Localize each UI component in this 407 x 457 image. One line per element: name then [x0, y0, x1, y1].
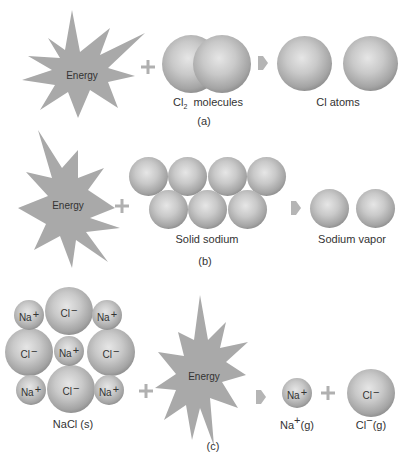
na-gas-label: Na+(g): [280, 414, 314, 431]
na-atom: [228, 190, 267, 229]
energy-label-c: Energy: [188, 371, 220, 382]
cl-ion: Cl−: [45, 287, 93, 335]
cl-ion: Cl−: [5, 328, 53, 376]
cl-ion: Cl−: [87, 328, 135, 376]
arrow-icon-a: [258, 56, 268, 70]
sodium-vapor-label: Sodium vapor: [318, 233, 386, 245]
caption-a: (a): [197, 115, 210, 127]
na-ion: Na+: [92, 300, 122, 330]
cl-ion-gas: Cl−: [347, 369, 395, 417]
caption-b: (b): [198, 255, 211, 267]
energy-label-b: Energy: [52, 200, 84, 211]
solid-sodium-label: Solid sodium: [176, 233, 239, 245]
na-atom: [149, 190, 188, 229]
na-ion: Na+: [54, 336, 84, 366]
cl-atoms-label: Cl atoms: [316, 96, 359, 108]
na-atom: [188, 190, 227, 229]
cl-atom-1: [277, 36, 332, 91]
plus-icon-b: [115, 199, 129, 213]
na-ion-gas: Na+: [282, 378, 312, 408]
energy-starburst-a: [22, 10, 145, 118]
arrow-icon-b: [291, 201, 301, 215]
caption-c: (c): [207, 440, 220, 452]
plus-icon-c2: [321, 386, 335, 400]
na-vapor-atom-2: [356, 189, 395, 228]
cl-gas-label: Cl−(g): [356, 414, 386, 431]
plus-icon-c1: [139, 384, 153, 398]
cl2-atom-right: [193, 35, 251, 93]
na-ion: Na+: [14, 300, 44, 330]
na-vapor-atom-1: [310, 189, 349, 228]
na-ion: Na+: [16, 375, 46, 405]
arrow-icon-c: [256, 390, 266, 404]
nacl-solid-label: NaCl (s): [53, 418, 93, 430]
cl-atom-2: [343, 36, 398, 91]
cl-ion: Cl−: [47, 365, 95, 413]
na-ion: Na+: [94, 375, 124, 405]
cl2-molecules-label: Cl2 molecules: [173, 96, 243, 110]
energy-label-a: Energy: [66, 70, 98, 81]
plus-icon-a: [141, 60, 155, 74]
